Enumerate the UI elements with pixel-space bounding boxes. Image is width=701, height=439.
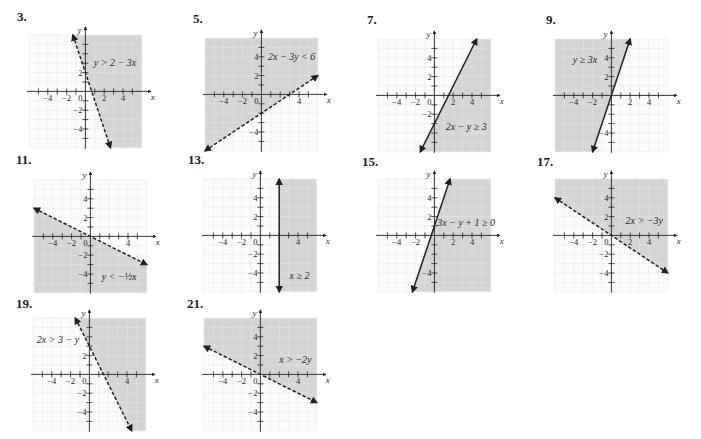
origin-label: 0: [253, 237, 257, 247]
inequality-graph: xy−4−22442−43x − y + 1 ≥ 0: [378, 171, 538, 296]
problem-number: 11.: [16, 152, 32, 168]
problem-9: 9. xy−4−22442−4y ≥ 3x: [546, 12, 701, 157]
problem-17: 17. xy−4−22442−2−402x > −3y: [537, 154, 701, 299]
y-tick-label: −4: [78, 269, 88, 279]
y-tick-label: 2: [83, 213, 87, 223]
y-tick-label: 2: [427, 212, 431, 222]
y-tick-label: 4: [253, 332, 258, 342]
y-axis-label: y: [252, 28, 257, 38]
problem-number: 9.: [546, 12, 556, 28]
y-tick-label: 4: [604, 193, 609, 203]
x-tick-label: −4: [569, 237, 579, 247]
x-tick-label: −2: [411, 237, 420, 247]
y-axis-label: y: [251, 169, 256, 179]
y-tick-label: −4: [73, 124, 83, 134]
inequality-label: x ≥ 2: [289, 270, 310, 281]
y-tick-label: −4: [248, 407, 258, 417]
truncated-text-line: [16, 433, 696, 439]
problem-19: 19. xy−4−242−2−402x > 3 − y: [16, 296, 191, 439]
origin-label: 0: [253, 376, 257, 386]
problem-15: 15. xy−4−22442−43x − y + 1 ≥ 0: [362, 154, 537, 299]
x-tick-label: −2: [237, 376, 246, 386]
x-tick-label: 2: [102, 93, 106, 103]
problem-number: 13.: [188, 152, 204, 168]
x-tick-label: −4: [48, 238, 58, 248]
problem-number: 15.: [362, 154, 378, 170]
y-tick-label: 4: [427, 193, 432, 203]
x-axis-label: x: [154, 375, 159, 385]
x-axis-label: x: [325, 375, 330, 385]
y-axis-label: y: [602, 29, 607, 39]
y-tick-label: 4: [254, 52, 259, 62]
inequality-graph: xy−4−242−2−402x > 3 − y: [33, 310, 193, 435]
problem-number: 21.: [187, 296, 203, 312]
x-tick-label: −2: [62, 93, 71, 103]
y-tick-label: −4: [599, 268, 609, 278]
problem-3: 3. xy−4−2242−2−40y > 2 − 3x: [17, 9, 192, 154]
x-tick-label: −2: [238, 96, 247, 106]
x-tick-label: −2: [411, 97, 420, 107]
origin-label: 0: [604, 237, 608, 247]
problem-number: 5.: [193, 11, 203, 27]
x-tick-label: −4: [392, 237, 402, 247]
inequality-label: 2x > −3y: [626, 215, 664, 226]
x-tick-label: −2: [66, 376, 75, 386]
y-axis-label: y: [425, 29, 430, 39]
y-tick-label: −4: [422, 268, 432, 278]
y-tick-label: 2: [253, 212, 257, 222]
y-tick-label: 4: [83, 194, 88, 204]
inequality-label: x > −2y: [278, 354, 312, 365]
x-tick-label: −2: [237, 237, 246, 247]
inequality-label: 3x − y + 1 ≥ 0: [436, 217, 495, 228]
problem-5: 5. xy−4−2442−402x − 3y < 6: [193, 11, 368, 156]
y-tick-label: −2: [248, 388, 257, 398]
problem-11: 11. xy−4−2442−2−40y < −½x: [16, 152, 191, 297]
x-axis-label: x: [150, 92, 155, 102]
y-tick-label: 2: [78, 68, 82, 78]
origin-label: 0: [427, 97, 431, 107]
problem-number: 3.: [17, 9, 27, 25]
problem-21: 21. xy−4−2442−2−40x > −2y: [187, 296, 362, 439]
x-tick-label: −4: [47, 376, 57, 386]
y-axis-label: y: [80, 308, 85, 318]
problem-number: 7.: [367, 12, 377, 28]
y-axis-label: y: [425, 169, 430, 179]
origin-label: 0: [82, 376, 86, 386]
x-axis-label: x: [499, 236, 504, 246]
x-tick-label: 2: [451, 97, 455, 107]
y-tick-label: 2: [253, 351, 257, 361]
x-tick-label: −4: [218, 237, 228, 247]
problem-13: 13. xy−4−2442−2−40x ≥ 2: [188, 152, 363, 297]
inequality-graph: xy−4−22442−4y ≥ 3x: [555, 31, 701, 156]
inequality-label: y < −½x: [101, 271, 137, 282]
y-tick-label: −4: [248, 268, 258, 278]
y-tick-label: −4: [77, 407, 87, 417]
inequality-label: 2x > 3 − y: [37, 334, 80, 345]
y-tick-label: 2: [604, 72, 608, 82]
y-tick-label: 2: [604, 212, 608, 222]
inequality-label: y ≥ 3x: [572, 54, 598, 65]
x-tick-label: −4: [392, 97, 402, 107]
y-tick-label: −2: [248, 249, 257, 259]
inequality-graph: xy−4−2442−402x − 3y < 6: [205, 30, 365, 155]
inequality-graph: xy−4−2442−2−40x > −2y: [204, 310, 364, 435]
inequality-label: 2x − 3y < 6: [268, 51, 315, 62]
x-tick-label: −4: [218, 376, 228, 386]
x-axis-label: x: [499, 96, 504, 106]
y-tick-label: 4: [253, 193, 258, 203]
x-tick-label: −4: [43, 93, 53, 103]
problem-number: 17.: [537, 154, 553, 170]
x-tick-label: −2: [588, 237, 597, 247]
x-axis-label: x: [676, 236, 681, 246]
x-tick-label: −4: [219, 96, 229, 106]
y-axis-label: y: [76, 25, 81, 35]
x-axis-label: x: [325, 236, 330, 246]
inequality-graph: xy−4−2242−2−40y > 2 − 3x: [29, 27, 189, 152]
y-tick-label: −2: [77, 388, 86, 398]
y-tick-label: 2: [82, 351, 86, 361]
y-axis-label: y: [251, 308, 256, 318]
y-axis-label: y: [81, 170, 86, 180]
y-tick-label: 4: [427, 53, 432, 63]
x-axis-label: x: [326, 95, 331, 105]
y-tick-label: 4: [604, 53, 609, 63]
